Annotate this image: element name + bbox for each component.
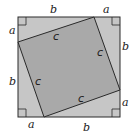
pythagorean-diagram: b a a b b a a b c c c c: [0, 0, 137, 137]
label-c-right: c: [97, 46, 103, 59]
label-left-b: b: [9, 75, 16, 88]
label-c-left: c: [35, 75, 41, 88]
label-bottom-b: b: [83, 121, 90, 134]
label-left-a: a: [9, 24, 16, 37]
label-c-top: c: [53, 30, 59, 43]
label-bottom-a: a: [28, 118, 35, 131]
label-top-b: b: [50, 3, 57, 16]
label-top-a: a: [103, 3, 110, 16]
label-right-a: a: [122, 96, 129, 109]
label-c-bottom: c: [78, 92, 84, 105]
label-right-b: b: [122, 40, 129, 53]
